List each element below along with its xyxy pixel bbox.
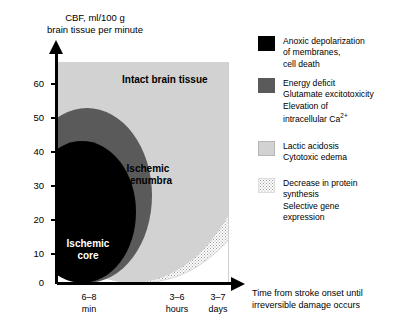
legend-item-energy-deficit: Energy deficit Glutamate excitotoxicity … bbox=[258, 78, 374, 125]
legend-label-lactic-acidosis: Lactic acidosis Cytotoxic edema bbox=[283, 141, 347, 164]
ischemia-cbf-diagram: CBF, ml/100 g brain tissue per minute In… bbox=[0, 0, 410, 327]
x-tick-label-3-7-days: 3–7 days bbox=[196, 292, 240, 315]
y-tick-label-0: 0 bbox=[18, 277, 44, 288]
legend-label-energy-deficit-text: Energy deficit Glutamate excitotoxicity … bbox=[283, 78, 374, 124]
x-axis-title: Time from stroke onset until irreversibl… bbox=[252, 288, 402, 311]
legend-label-anoxic-depolarization: Anoxic depolarization of membranes, cell… bbox=[283, 36, 365, 70]
y-tick-mark-50 bbox=[51, 117, 56, 119]
y-axis-title: CBF, ml/100 g brain tissue per minute bbox=[20, 12, 170, 36]
y-tick-label-60: 60 bbox=[18, 78, 44, 89]
y-tick-mark-60 bbox=[51, 83, 56, 85]
x-tick-label-3-6-hours: 3–6 hours bbox=[155, 292, 199, 315]
legend-label-protein-synthesis: Decrease in protein synthesis Selective … bbox=[283, 178, 358, 223]
plot-frame-right-border bbox=[228, 62, 229, 283]
x-axis-line bbox=[57, 282, 233, 285]
y-tick-label-20: 20 bbox=[18, 214, 44, 225]
legend-swatch-stipple-icon bbox=[258, 178, 275, 193]
legend-label-calcium-superscript: 2+ bbox=[340, 112, 347, 119]
legend-item-protein-synthesis: Decrease in protein synthesis Selective … bbox=[258, 178, 358, 223]
y-tick-label-30: 30 bbox=[18, 180, 44, 191]
legend-swatch-dark-gray-icon bbox=[258, 78, 275, 93]
x-axis-arrow-icon bbox=[231, 277, 245, 291]
legend-item-anoxic-depolarization: Anoxic depolarization of membranes, cell… bbox=[258, 36, 365, 70]
legend-label-energy-deficit: Energy deficit Glutamate excitotoxicity … bbox=[283, 78, 374, 125]
legend-swatch-light-gray-icon bbox=[258, 141, 275, 156]
x-tick-label-6-8-min: 6–8 min bbox=[67, 292, 111, 315]
y-tick-mark-30 bbox=[51, 185, 56, 187]
y-tick-label-40: 40 bbox=[18, 146, 44, 157]
y-tick-mark-20 bbox=[51, 219, 56, 221]
y-tick-label-10: 10 bbox=[18, 248, 44, 259]
y-tick-label-50: 50 bbox=[18, 112, 44, 123]
label-ischemic-core: Ischemic core bbox=[58, 238, 118, 262]
label-intact-brain-tissue: Intact brain tissue bbox=[122, 74, 208, 85]
legend-item-lactic-acidosis: Lactic acidosis Cytotoxic edema bbox=[258, 141, 347, 164]
y-tick-mark-10 bbox=[51, 253, 56, 255]
label-ischemic-penumbra: Ischemic penumbra bbox=[108, 163, 188, 187]
y-axis-arrow-icon bbox=[49, 40, 63, 54]
y-axis-line bbox=[55, 50, 58, 284]
y-tick-mark-40 bbox=[51, 151, 56, 153]
legend-swatch-black-icon bbox=[258, 36, 275, 51]
